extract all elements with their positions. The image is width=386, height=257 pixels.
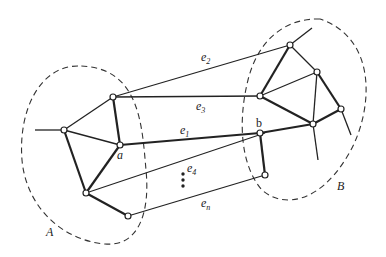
node bbox=[61, 127, 67, 133]
edges-region-a bbox=[35, 97, 128, 216]
node bbox=[314, 69, 320, 75]
ellipsis-dots bbox=[181, 172, 184, 187]
region-b-boundary bbox=[242, 19, 366, 200]
edge-e2-label: e2 bbox=[201, 50, 210, 66]
nodes bbox=[61, 42, 344, 219]
node-a-label: a bbox=[117, 148, 123, 162]
node bbox=[310, 121, 316, 127]
node bbox=[262, 172, 268, 178]
node bbox=[110, 94, 116, 100]
node bbox=[125, 213, 131, 219]
edge-e4 bbox=[86, 133, 265, 193]
node bbox=[83, 190, 89, 196]
edge-e3-label: e3 bbox=[196, 99, 205, 115]
region-b-label: B bbox=[337, 179, 345, 193]
edge-en bbox=[128, 175, 265, 216]
node-b bbox=[257, 130, 263, 136]
node-b-label: b bbox=[256, 116, 262, 130]
edge-e4-label: e4 bbox=[187, 161, 196, 177]
node bbox=[287, 42, 293, 48]
edge-en-label: en bbox=[201, 196, 210, 212]
region-a-label: A bbox=[45, 225, 54, 239]
edge-e1 bbox=[120, 133, 260, 145]
graph-diagram: a b e2 e3 e1 e4 en A B bbox=[0, 0, 386, 257]
edge-e1-label: e1 bbox=[180, 123, 189, 139]
edge-e3 bbox=[113, 96, 260, 97]
node bbox=[257, 93, 263, 99]
node bbox=[338, 106, 344, 112]
